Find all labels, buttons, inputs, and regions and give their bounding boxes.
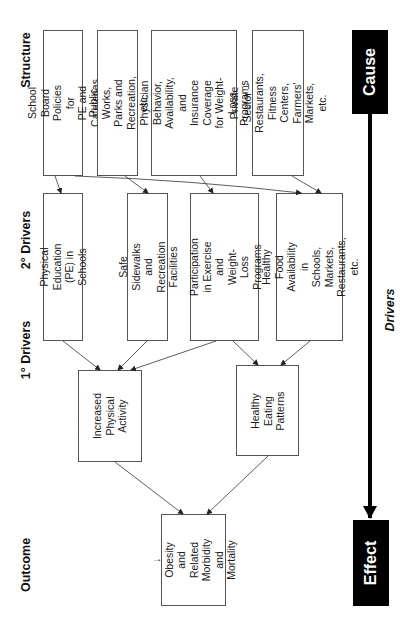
arrow-d3-p1 (131, 341, 216, 370)
arrow-d1-p1 (63, 341, 100, 370)
driver-diagram: Structure 2° Drivers 1° Drivers Outcome … (0, 0, 406, 627)
arrow-s4-d4 (292, 176, 321, 193)
arrow-s3-d3 (200, 176, 213, 193)
arrow-p2-o1 (207, 456, 268, 514)
arrow-d4-p2 (281, 341, 310, 365)
connector-arrows (0, 0, 406, 627)
arrow-d3-p2 (233, 341, 258, 365)
arrow-s1-d1 (55, 176, 61, 193)
arrow-s1-d4 (75, 176, 301, 193)
arrow-p1-o1 (115, 462, 183, 514)
